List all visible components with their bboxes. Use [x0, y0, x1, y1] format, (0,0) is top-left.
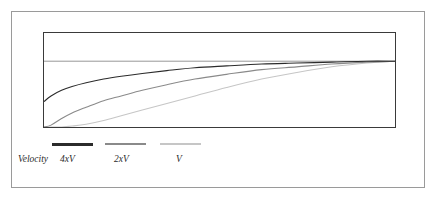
- legend-label-4xv: 4xV: [60, 154, 75, 164]
- plot-svg: [44, 33, 395, 127]
- data-series-group: [44, 61, 395, 127]
- legend: Velocity 4xV 2xV V: [18, 136, 218, 174]
- legend-swatch-4xv: [52, 143, 93, 146]
- legend-swatch-2xv: [105, 143, 146, 145]
- series-line-2xv: [44, 61, 395, 127]
- plot-area: [43, 32, 396, 128]
- legend-title: Velocity: [18, 154, 48, 164]
- series-line-4xv: [44, 61, 395, 101]
- legend-swatch-v: [160, 143, 201, 145]
- velocity-chart-figure: Velocity 4xV 2xV V: [0, 0, 438, 199]
- series-line-v: [44, 61, 395, 127]
- legend-label-2xv: 2xV: [114, 154, 129, 164]
- legend-label-v: V: [176, 154, 182, 164]
